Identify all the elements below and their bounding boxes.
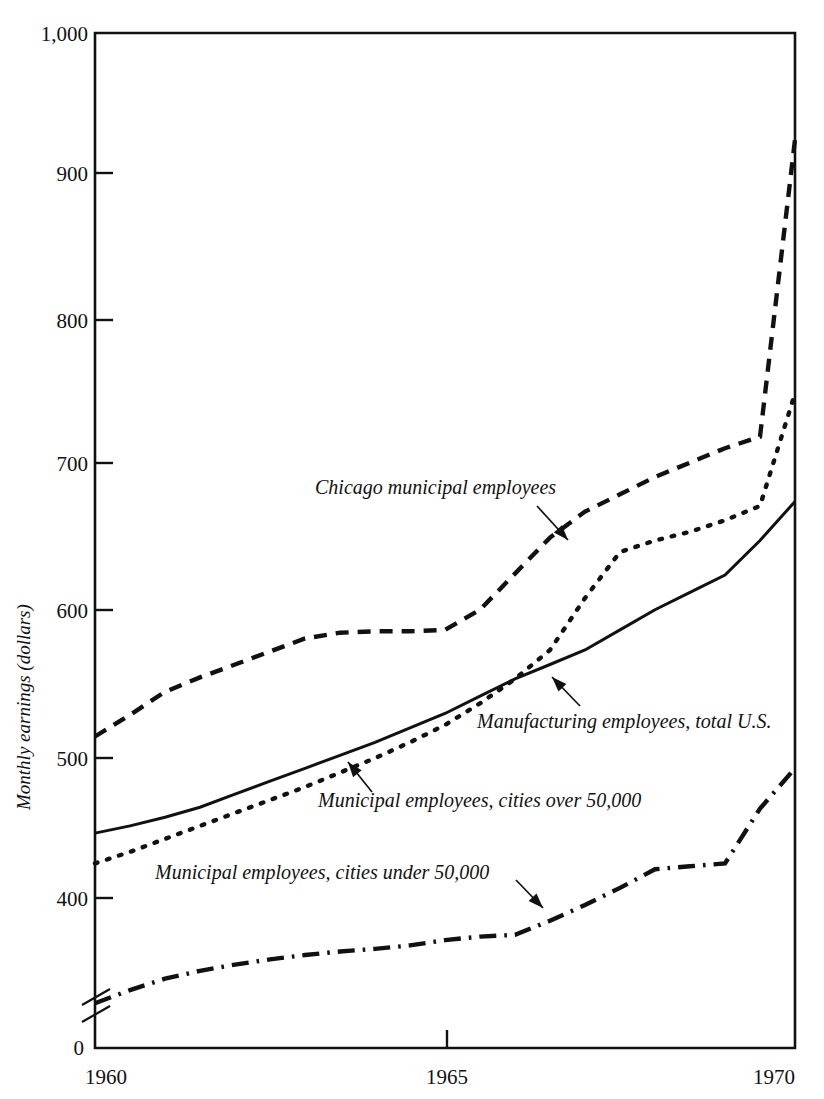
plot-frame xyxy=(95,33,795,1048)
manufacturing-label: Manufacturing employees, total U.S. xyxy=(476,710,771,733)
chart-figure: 1,000 900 800 700 600 500 400 0 1960 196… xyxy=(0,0,824,1099)
chicago-label: Chicago municipal employees xyxy=(315,476,556,499)
y-tick-label: 1,000 xyxy=(41,22,88,46)
annotation-group: Chicago municipal employeesManufacturing… xyxy=(154,476,771,908)
series-line-1 xyxy=(95,502,795,834)
y-tick-label: 900 xyxy=(57,162,89,186)
y-tick-label: 800 xyxy=(57,309,89,333)
series-line-0 xyxy=(95,140,795,737)
x-tick-label: 1965 xyxy=(426,1065,468,1089)
y-tick-label: 0 xyxy=(74,1036,85,1060)
line-chart-canvas: 1,000 900 800 700 600 500 400 0 1960 196… xyxy=(0,0,824,1099)
over-50000-label: Municipal employees, cities over 50,000 xyxy=(317,789,641,812)
y-tick-label: 600 xyxy=(57,599,89,623)
y-axis-tick-labels: 1,000 900 800 700 600 500 400 0 xyxy=(41,22,88,1060)
y-tick-label: 400 xyxy=(57,887,89,911)
y-axis-ticks xyxy=(95,173,113,898)
axis-top-left-border xyxy=(95,33,795,1048)
y-tick-label: 500 xyxy=(57,747,89,771)
y-axis-title: Monthly earnings (dollars) xyxy=(13,604,35,811)
x-tick-label: 1960 xyxy=(85,1065,127,1089)
under-50000-label: Municipal employees, cities under 50,000 xyxy=(154,861,489,884)
x-axis-tick-labels: 1960 1965 1970 xyxy=(85,1065,795,1089)
x-tick-label: 1970 xyxy=(753,1065,795,1089)
y-tick-label: 700 xyxy=(57,452,89,476)
